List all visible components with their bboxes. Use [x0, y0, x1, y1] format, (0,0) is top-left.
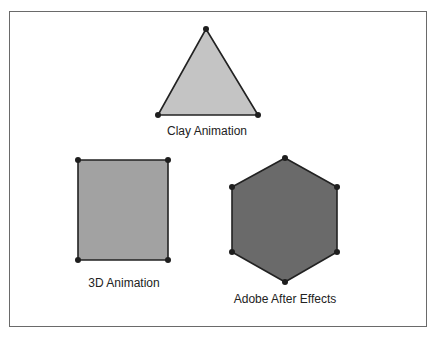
label-adobe-after-effects: Adobe After Effects: [234, 292, 337, 306]
vertex-dot: [334, 184, 340, 190]
rectangle-shape: [78, 160, 168, 260]
vertex-dot: [229, 249, 235, 255]
vertex-dot: [165, 257, 171, 263]
label-clay-animation: Clay Animation: [167, 124, 247, 138]
vertex-dot: [155, 112, 161, 118]
vertex-dot: [282, 279, 288, 285]
vertex-dot: [334, 249, 340, 255]
vertex-dot: [229, 184, 235, 190]
hexagon-shape: [232, 158, 337, 282]
vertex-dot: [203, 26, 209, 32]
vertex-dot: [282, 155, 288, 161]
vertex-dot: [75, 257, 81, 263]
shapes-canvas: [0, 0, 439, 339]
label-3d-animation: 3D Animation: [88, 276, 159, 290]
vertex-dot: [255, 112, 261, 118]
triangle-shape: [158, 29, 258, 115]
vertex-dot: [165, 157, 171, 163]
vertex-dot: [75, 157, 81, 163]
